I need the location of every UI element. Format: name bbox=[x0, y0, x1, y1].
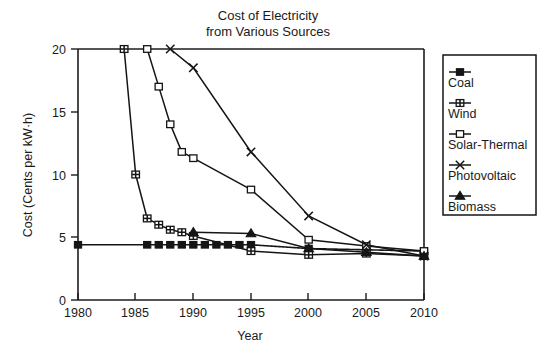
data-point-photovoltaic-1995 bbox=[247, 148, 255, 156]
x-tick-label-1995: 1995 bbox=[237, 306, 265, 320]
data-point-coal-1989 bbox=[178, 241, 185, 248]
x-tick-label-2000: 2000 bbox=[294, 306, 322, 320]
data-point-coal-1988 bbox=[167, 241, 174, 248]
y-axis-ticks: 20 15 10 5 0 bbox=[52, 43, 78, 308]
data-point-wind-1985 bbox=[132, 171, 140, 178]
series-layer bbox=[74, 45, 428, 260]
x-tick-label-2010: 2010 bbox=[410, 306, 438, 320]
data-point-solar-thermal-2000 bbox=[305, 236, 312, 243]
data-point-wind-1986 bbox=[143, 215, 151, 222]
y-tick-label-10: 10 bbox=[52, 169, 66, 183]
y-axis-label: Cost (Cents per kW·h) bbox=[21, 113, 35, 237]
legend-label: Wind bbox=[448, 107, 477, 121]
x-tick-label-2005: 2005 bbox=[352, 306, 380, 320]
legend-label: Solar-Thermal bbox=[448, 138, 527, 152]
series-solar-thermal bbox=[144, 46, 428, 255]
data-point-solar-thermal-1986 bbox=[144, 46, 151, 53]
legend-label: Photovoltaic bbox=[448, 169, 516, 183]
data-point-wind-2000 bbox=[305, 251, 313, 258]
data-point-coal-1980 bbox=[74, 241, 81, 248]
series-wind bbox=[120, 46, 427, 260]
plot-frame bbox=[78, 49, 424, 300]
data-point-solar-thermal-1987 bbox=[155, 83, 162, 90]
data-point-wind-1989 bbox=[178, 229, 186, 236]
data-point-coal-1990 bbox=[190, 241, 197, 248]
data-point-solar-thermal-1988 bbox=[167, 121, 174, 128]
chart-title-line2: from Various Sources bbox=[206, 24, 331, 39]
data-point-wind-1984 bbox=[120, 46, 128, 53]
y-tick-label-15: 15 bbox=[52, 106, 66, 120]
y-tick-label-5: 5 bbox=[59, 231, 66, 245]
legend-item-coal[interactable]: Coal bbox=[448, 69, 474, 90]
chart-figure: Cost of Electricity from Various Sources… bbox=[0, 0, 560, 357]
x-tick-label-1985: 1985 bbox=[121, 306, 149, 320]
data-point-wind-1987 bbox=[155, 221, 163, 228]
y-tick-label-20: 20 bbox=[52, 43, 66, 57]
data-point-solar-thermal-1990 bbox=[190, 155, 197, 162]
data-point-solar-thermal-1995 bbox=[247, 186, 254, 193]
data-point-coal-1987 bbox=[155, 241, 162, 248]
x-axis-label: Year bbox=[237, 329, 262, 343]
legend-label: Biomass bbox=[448, 200, 496, 214]
data-point-photovoltaic-2000 bbox=[304, 212, 312, 220]
data-point-coal-1986 bbox=[144, 241, 151, 248]
data-point-wind-1988 bbox=[166, 226, 174, 233]
chart-title-line1: Cost of Electricity bbox=[218, 8, 319, 23]
x-axis-ticks: 1980 1985 1990 1995 2000 2005 2010 bbox=[64, 293, 438, 320]
series-photovoltaic bbox=[166, 45, 428, 260]
data-point-legend-0 bbox=[456, 69, 463, 76]
data-point-legend-1 bbox=[456, 100, 464, 107]
data-point-photovoltaic-1990 bbox=[189, 64, 197, 72]
chart-svg: Cost of Electricity from Various Sources… bbox=[0, 0, 560, 357]
data-point-legend-2 bbox=[456, 131, 463, 138]
x-tick-label-1980: 1980 bbox=[64, 306, 92, 320]
data-point-coal-1991 bbox=[201, 241, 208, 248]
data-point-solar-thermal-1989 bbox=[178, 149, 185, 156]
data-point-biomass-1990 bbox=[189, 228, 199, 236]
data-point-wind-1995 bbox=[247, 248, 255, 255]
legend-label: Coal bbox=[448, 76, 474, 90]
x-tick-label-1990: 1990 bbox=[179, 306, 207, 320]
